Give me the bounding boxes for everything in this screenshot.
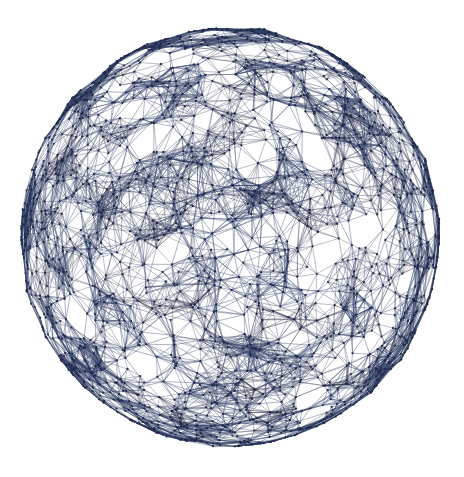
sphere-graph-visualization [0, 0, 464, 477]
figure-root [0, 0, 464, 477]
